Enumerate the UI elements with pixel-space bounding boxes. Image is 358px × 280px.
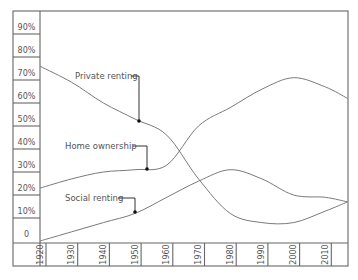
- x-tick-label: 1940: [99, 244, 108, 264]
- callout-label-private-renting: Private renting: [75, 71, 138, 81]
- series-line-home-ownership: [40, 78, 348, 188]
- chart-frame: [13, 11, 348, 266]
- x-axis: 1920193019401950196019701980199020002010: [36, 243, 332, 266]
- outer-border: [13, 11, 348, 266]
- callout-marker-home-ownership: [145, 167, 149, 171]
- x-tick-label: 1930: [67, 244, 76, 264]
- y-tick-label: 10%: [18, 207, 36, 216]
- line-chart: 010%20%30%40%50%60%70%80%90% 19201930194…: [0, 0, 358, 280]
- series-lines: [40, 66, 348, 241]
- x-tick-label: 1950: [131, 244, 140, 264]
- callout-label-social-renting: Social renting: [65, 193, 123, 203]
- x-tick-label: 2010: [321, 244, 330, 264]
- y-tick-label: 30%: [18, 161, 36, 170]
- y-tick-label: 50%: [18, 115, 36, 124]
- y-axis: 010%20%30%40%50%60%70%80%90%: [13, 23, 40, 239]
- y-tick-label: 40%: [18, 138, 36, 147]
- y-tick-label: 60%: [18, 92, 36, 101]
- y-tick-label: 0: [24, 230, 29, 239]
- x-tick-label: 1920: [36, 244, 45, 264]
- x-tick-label: 1970: [194, 244, 203, 264]
- x-tick-label: 1960: [162, 244, 171, 264]
- callout-leader-private-renting: [131, 76, 139, 121]
- x-tick-label: 1980: [226, 244, 235, 264]
- y-tick-label: 80%: [18, 46, 36, 55]
- callouts: Private rentingHome ownershipSocial rent…: [65, 71, 149, 214]
- series-line-social-renting: [40, 170, 348, 241]
- callout-marker-social-renting: [133, 210, 137, 214]
- y-tick-label: 20%: [18, 184, 36, 193]
- x-tick-label: 2000: [289, 244, 298, 264]
- callout-label-home-ownership: Home ownership: [65, 141, 137, 151]
- callout-marker-private-renting: [137, 119, 141, 123]
- x-tick-label: 1990: [257, 244, 266, 264]
- y-tick-label: 90%: [18, 23, 36, 32]
- y-tick-label: 70%: [18, 69, 36, 78]
